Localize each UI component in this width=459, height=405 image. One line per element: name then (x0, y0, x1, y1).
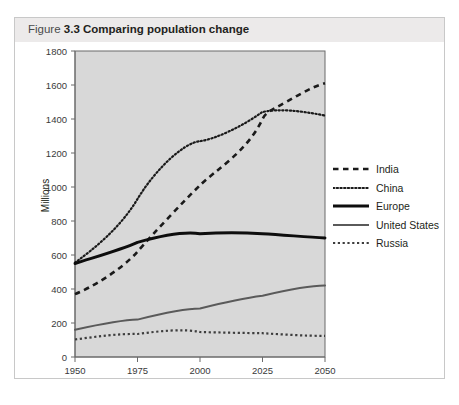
y-tick-label-1200: 1200 (33, 148, 67, 159)
y-tick-label-0: 0 (33, 352, 67, 363)
figure-card: Figure 3.3 Comparing population change M… (14, 17, 445, 379)
x-tick-label-1950: 1950 (55, 365, 95, 376)
y-tick-label-1600: 1600 (33, 80, 67, 91)
legend-label-india: India (376, 164, 399, 175)
page-title: Figure 3.3 Comparing population change (28, 23, 249, 35)
legend-swatch-china (333, 183, 369, 193)
y-tick-label-200: 200 (33, 318, 67, 329)
figure-label: Figure (28, 23, 61, 35)
figure-title: Comparing population change (83, 23, 249, 35)
y-tick-label-400: 400 (33, 284, 67, 295)
legend-item-china[interactable]: China (333, 179, 443, 198)
x-tick-label-2025: 2025 (243, 365, 283, 376)
legend-label-united-states: United States (376, 220, 439, 231)
y-tick-label-600: 600 (33, 250, 67, 261)
x-axis-ticks (75, 357, 325, 362)
legend-swatch-europe (333, 201, 369, 211)
x-tick-label-2000: 2000 (180, 365, 220, 376)
legend-swatch-russia (333, 238, 369, 248)
legend-swatch-india (333, 164, 369, 174)
plot-background (75, 51, 325, 357)
y-tick-label-1000: 1000 (33, 182, 67, 193)
legend-swatch-united-states (333, 220, 369, 230)
y-tick-label-800: 800 (33, 216, 67, 227)
figure-title-bar: Figure 3.3 Comparing population change (15, 18, 444, 42)
legend-label-russia: Russia (376, 238, 408, 249)
chart-legend: India China Europe United States (333, 160, 443, 253)
y-tick-label-1400: 1400 (33, 114, 67, 125)
legend-label-china: China (376, 183, 403, 194)
legend-item-russia[interactable]: Russia (333, 234, 443, 253)
y-axis-ticks (71, 51, 75, 357)
legend-item-india[interactable]: India (333, 160, 443, 179)
x-tick-label-2050: 2050 (305, 365, 345, 376)
figure-number: 3.3 (64, 23, 80, 35)
chart-area: Millions (15, 42, 446, 379)
legend-item-united-states[interactable]: United States (333, 216, 443, 235)
legend-label-europe: Europe (376, 201, 410, 212)
y-tick-label-1800: 1800 (33, 46, 67, 57)
legend-item-europe[interactable]: Europe (333, 197, 443, 216)
x-tick-label-1975: 1975 (118, 365, 158, 376)
